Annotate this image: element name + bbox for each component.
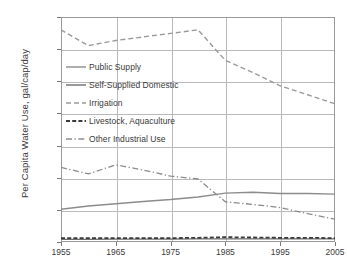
x-tick-mark	[280, 242, 281, 246]
x-tick-mark	[225, 242, 226, 246]
series-line-public-supply	[61, 192, 335, 209]
x-tick-label: 1995	[260, 247, 300, 257]
x-tick-mark	[335, 242, 336, 246]
legend-label: Other Industrial Use	[89, 134, 166, 144]
legend-label: Irrigation	[89, 98, 123, 108]
legend-label: Public Supply	[89, 62, 141, 72]
legend-swatch-dashed-icon	[66, 98, 86, 108]
legend-item-self-supplied-domestic: Self-Supplied Domestic	[66, 76, 178, 94]
legend-item-livestock-aquaculture: Livestock, Aquaculture	[66, 112, 178, 130]
x-tick-label: 1965	[96, 247, 136, 257]
legend-item-irrigation: Irrigation	[66, 94, 178, 112]
legend-swatch-dash-dot-icon	[66, 134, 86, 144]
chart-container: Per Capita Water Use, gal/cap/day 700 60…	[0, 0, 347, 273]
x-tick-mark	[116, 242, 117, 246]
legend-item-other-industrial-use: Other Industrial Use	[66, 130, 178, 148]
legend-swatch-dashed-heavy-icon	[66, 116, 86, 126]
x-tick-label: 1985	[205, 247, 245, 257]
y-tick-mark	[57, 242, 61, 243]
x-tick-mark	[61, 242, 62, 246]
legend-swatch-solid-icon	[66, 80, 86, 90]
legend-label: Livestock, Aquaculture	[89, 116, 175, 126]
y-axis-title: Per Capita Water Use, gal/cap/day	[19, 14, 30, 234]
legend-item-public-supply: Public Supply	[66, 58, 178, 76]
x-tick-label: 2005	[315, 247, 347, 257]
x-tick-label: 1975	[151, 247, 191, 257]
series-line-livestock-aquaculture	[61, 237, 335, 238]
chart-legend: Public Supply Self-Supplied Domestic Irr…	[66, 58, 178, 148]
legend-swatch-solid-icon	[66, 62, 86, 72]
series-line-other-industrial-use	[61, 165, 335, 219]
x-tick-mark	[171, 242, 172, 246]
legend-label: Self-Supplied Domestic	[89, 80, 178, 90]
x-tick-label: 1955	[41, 247, 81, 257]
